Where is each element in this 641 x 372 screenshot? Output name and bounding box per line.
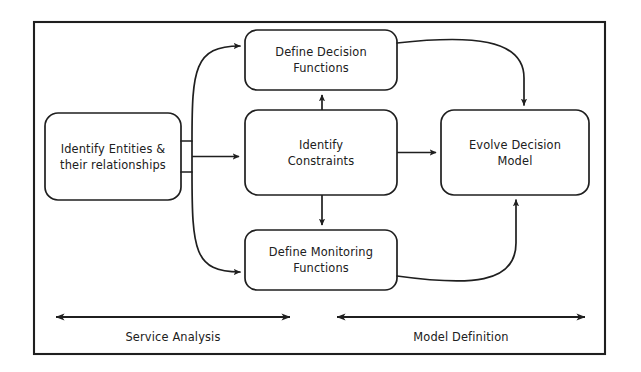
node-box-identify-constraints[interactable] [245, 110, 397, 195]
diagram-vector-layer [0, 0, 641, 372]
connector-entities-to-decision-functions [192, 46, 240, 141]
connector-monitoring-functions-to-evolve-model [397, 200, 516, 281]
connector-entities-to-monitoring-functions [192, 172, 240, 272]
phase-label-service-analysis: Service Analysis [56, 330, 290, 344]
phase-label-model-definition: Model Definition [337, 330, 585, 344]
connector-decision-functions-to-evolve-model [397, 39, 524, 105]
node-box-evolve-decision-model[interactable] [441, 110, 589, 195]
node-box-define-monitoring-functions[interactable] [245, 230, 397, 290]
diagram-canvas: Identify Entities & their relationships … [0, 0, 641, 372]
node-box-identify-entities[interactable] [45, 113, 181, 200]
node-box-define-decision-functions[interactable] [245, 30, 397, 90]
connector-entities-trunk [181, 141, 192, 172]
